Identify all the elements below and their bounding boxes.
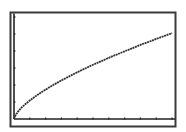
curve-point [148,42,149,43]
curve-point [108,57,109,58]
curve-point [116,54,117,55]
curve-point [22,107,23,108]
curve-point [45,89,46,90]
curve-point [14,119,15,120]
calculator-graph-screen [0,0,186,132]
curve-point [164,36,165,37]
curve-point [18,111,19,112]
curve-point [140,44,141,45]
curve-point [93,64,94,65]
curve-point [53,84,54,85]
curve-point [172,33,173,34]
curve-point [25,103,26,104]
curve-point [85,68,86,69]
curve-point [156,39,157,40]
curve-point [101,61,102,62]
curve-point [69,76,70,77]
curve-point [77,72,78,73]
curve-point [37,94,38,95]
curve-point [61,80,62,81]
screen-frame [11,13,176,127]
curve-point [124,51,125,52]
curve-point [29,100,30,101]
curve-point [132,48,133,49]
curve-point [15,115,16,116]
